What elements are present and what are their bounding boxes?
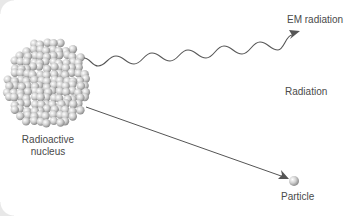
particle-arrow (86, 107, 284, 177)
nucleus-label: Radioactive nucleus (18, 134, 78, 158)
radiation-label: Radiation (285, 86, 327, 98)
particle-label: Particle (281, 191, 314, 203)
em-wave-arrow (84, 35, 292, 66)
em-arrowhead-icon (289, 30, 300, 39)
particle-arrowhead-icon (278, 170, 289, 179)
nucleus-label-line2: nucleus (31, 146, 65, 157)
nucleus-label-line1: Radioactive (22, 134, 74, 145)
particle-icon (289, 176, 299, 186)
em-radiation-label: EM radiation (287, 14, 343, 26)
nucleus-icon (3, 39, 90, 128)
diagram-frame: EM radiation Radiation Radioactive nucle… (0, 0, 349, 216)
diagram-canvas (0, 0, 349, 216)
